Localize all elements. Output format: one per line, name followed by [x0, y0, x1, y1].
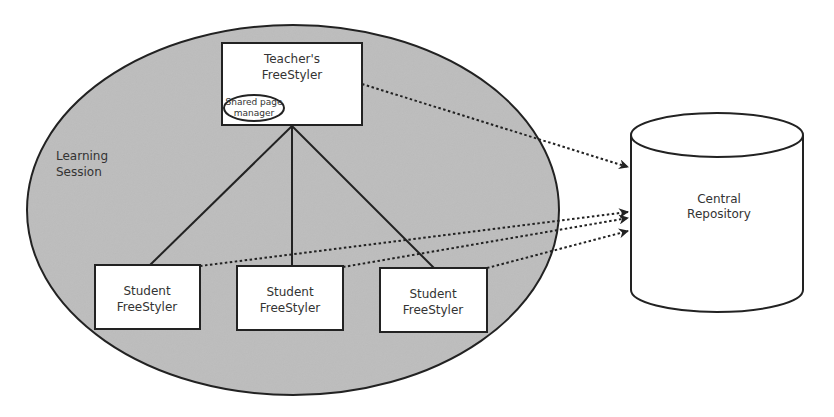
student3-label-line1: Student [409, 287, 457, 301]
repository-label-line2: Repository [687, 207, 751, 221]
repository-label-line1: Central [697, 192, 741, 206]
teacher-label-line2: FreeStyler [262, 68, 323, 82]
student1-label-line1: Student [123, 284, 171, 298]
diagram-canvas: Learning Session Teacher's FreeStyler Sh… [0, 0, 834, 417]
student-freestyler-node-3[interactable]: Student FreeStyler [380, 268, 487, 332]
student-freestyler-node-2[interactable]: Student FreeStyler [237, 266, 343, 330]
shared-page-manager-node[interactable]: Shared page manager [224, 95, 284, 121]
shared-page-manager-line2: manager [234, 108, 275, 118]
learning-session-label-line1: Learning [56, 149, 108, 163]
student1-label-line2: FreeStyler [117, 300, 178, 314]
learning-session-label-line2: Session [56, 165, 102, 179]
shared-page-manager-line1: Shared page [225, 97, 282, 107]
central-repository-node[interactable]: Central Repository [631, 113, 803, 312]
student-freestyler-node-1[interactable]: Student FreeStyler [95, 265, 200, 329]
student3-label-line2: FreeStyler [403, 303, 464, 317]
teacher-label-line1: Teacher's [263, 52, 320, 66]
teacher-freestyler-node[interactable]: Teacher's FreeStyler Shared page manager [222, 43, 362, 125]
student2-label-line2: FreeStyler [260, 301, 321, 315]
student2-label-line1: Student [266, 285, 314, 299]
